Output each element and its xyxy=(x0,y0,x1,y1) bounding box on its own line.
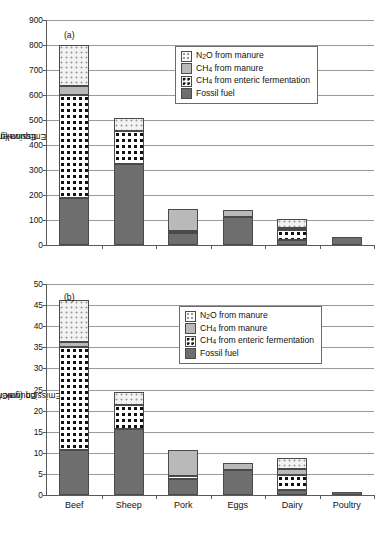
gridline-100 xyxy=(47,220,374,221)
bar-segment-beef-manure-ch4 xyxy=(59,86,89,95)
bar-sheep xyxy=(114,284,144,495)
y-tick-mark-500 xyxy=(43,120,47,121)
y-tick-label-15: 15 xyxy=(34,427,43,437)
bar-segment-dairy-n2o xyxy=(277,219,307,228)
y-tick-mark-30 xyxy=(43,368,47,369)
x-axis-label-eggs: Eggs xyxy=(227,500,248,510)
legend-label-fossil: Fossil fuel xyxy=(200,349,239,358)
bar-segment-pork-manure-ch4 xyxy=(168,450,198,476)
legend-row-manure-ch4: CH4 from manure xyxy=(181,63,310,76)
gridline-900 xyxy=(47,20,374,21)
y-tick-mark-50 xyxy=(43,284,47,285)
x-axis-label-beef: Beef xyxy=(65,500,84,510)
y-tick-mark-45 xyxy=(43,305,47,306)
bar-poultry xyxy=(332,284,362,495)
gridline-300 xyxy=(47,170,374,171)
x-tick-mark-poultry xyxy=(374,495,375,499)
x-axis-label-poultry: Poultry xyxy=(333,500,361,510)
gridline-50 xyxy=(47,284,374,285)
legend-swatch-n2o-icon xyxy=(185,311,196,322)
gridline-400 xyxy=(47,145,374,146)
legend-row-n2o: N2O from manure xyxy=(181,50,310,63)
x-tick-mark-eggs xyxy=(265,495,266,499)
bar-segment-dairy-manure-ch4 xyxy=(277,469,307,475)
legend-swatch-enteric-icon xyxy=(181,76,192,87)
bar-segment-pork-enteric xyxy=(168,476,198,479)
figure-stacked-bar-emissions: Equivalent CO2 Emission (gmC/MJ) 0100200… xyxy=(0,0,384,537)
x-tick-mark-eggs xyxy=(265,245,266,249)
legend-row-enteric: CH4 from enteric fermentation xyxy=(185,335,314,348)
legend-swatch-fossil-icon xyxy=(181,88,192,99)
bar-segment-pork-fossil xyxy=(168,233,198,245)
legend-label-enteric: CH4 from enteric fermentation xyxy=(200,336,314,346)
legend-label-enteric: CH4 from enteric fermentation xyxy=(196,76,310,86)
bar-segment-sheep-fossil xyxy=(114,429,144,495)
y-tick-label-5: 5 xyxy=(38,469,43,479)
y-tick-mark-15 xyxy=(43,432,47,433)
gridline-25 xyxy=(47,390,374,391)
legend-label-n2o: N2O from manure xyxy=(196,51,264,61)
bar-segment-sheep-enteric xyxy=(114,405,144,429)
bar-segment-beef-manure-ch4 xyxy=(59,342,89,347)
bar-segment-pork-enteric xyxy=(168,231,198,234)
bar-segment-pork-manure-ch4 xyxy=(168,209,198,231)
y-tick-label-0: 0 xyxy=(38,490,43,500)
plot-area-a: 0100200300400500600700800900 (a) N2O fro… xyxy=(46,20,374,246)
y-tick-label-20: 20 xyxy=(34,406,43,416)
y-tick-label-200: 200 xyxy=(29,190,43,200)
y-tick-mark-900 xyxy=(43,20,47,21)
y-tick-label-800: 800 xyxy=(29,40,43,50)
y-tick-mark-300 xyxy=(43,170,47,171)
bar-sheep xyxy=(114,20,144,245)
legend-swatch-fossil-icon xyxy=(185,348,196,359)
y-tick-label-25: 25 xyxy=(34,385,43,395)
y-tick-mark-100 xyxy=(43,220,47,221)
bar-beef xyxy=(59,20,89,245)
chart-panel-b: Equivalent CO2 Emission (gmC/gm protein)… xyxy=(0,272,384,520)
y-axis-title-b: Equivalent CO2 Emission (gmC/gm protein) xyxy=(0,272,16,520)
legend-a: N2O from manureCH4 from manureCH4 from e… xyxy=(175,46,318,104)
legend-label-manure-ch4: CH4 from manure xyxy=(200,324,267,334)
gridline-500 xyxy=(47,120,374,121)
legend-label-manure-ch4: CH4 from manure xyxy=(196,64,263,74)
y-tick-label-50: 50 xyxy=(34,279,43,289)
y-tick-mark-0 xyxy=(43,495,47,496)
legend-label-n2o: N2O from manure xyxy=(200,311,268,321)
y-tick-mark-600 xyxy=(43,95,47,96)
y-tick-label-35: 35 xyxy=(34,342,43,352)
gridline-15 xyxy=(47,432,374,433)
bar-segment-eggs-manure-ch4 xyxy=(223,463,253,469)
gridline-200 xyxy=(47,195,374,196)
y-tick-mark-700 xyxy=(43,70,47,71)
x-axis-label-dairy: Dairy xyxy=(282,500,303,510)
bar-segment-beef-n2o xyxy=(59,45,89,86)
bar-segment-eggs-fossil xyxy=(223,217,253,245)
bar-beef xyxy=(59,284,89,495)
y-tick-label-0: 0 xyxy=(38,240,43,250)
legend-row-manure-ch4: CH4 from manure xyxy=(185,323,314,336)
legend-row-fossil: Fossil fuel xyxy=(181,88,310,101)
y-tick-label-600: 600 xyxy=(29,90,43,100)
y-tick-label-40: 40 xyxy=(34,321,43,331)
bar-segment-beef-fossil xyxy=(59,450,89,495)
legend-row-fossil: Fossil fuel xyxy=(185,348,314,361)
y-tick-label-900: 900 xyxy=(29,15,43,25)
bar-segment-sheep-enteric xyxy=(114,131,144,164)
x-axis-label-sheep: Sheep xyxy=(116,500,142,510)
y-tick-mark-200 xyxy=(43,195,47,196)
bar-segment-beef-enteric xyxy=(59,347,89,450)
gridline-30 xyxy=(47,368,374,369)
x-tick-mark-pork xyxy=(211,245,212,249)
y-tick-mark-25 xyxy=(43,390,47,391)
x-tick-mark-dairy xyxy=(320,245,321,249)
bar-segment-sheep-fossil xyxy=(114,164,144,245)
bar-segment-sheep-n2o xyxy=(114,118,144,132)
x-tick-mark-sheep xyxy=(156,245,157,249)
bar-segment-poultry-fossil xyxy=(332,237,362,245)
y-tick-mark-10 xyxy=(43,453,47,454)
bar-segment-pork-fossil xyxy=(168,479,198,495)
y-tick-mark-20 xyxy=(43,411,47,412)
bar-segment-dairy-enteric xyxy=(277,475,307,490)
bar-segment-dairy-enteric xyxy=(277,230,307,240)
legend-swatch-n2o-icon xyxy=(181,51,192,62)
